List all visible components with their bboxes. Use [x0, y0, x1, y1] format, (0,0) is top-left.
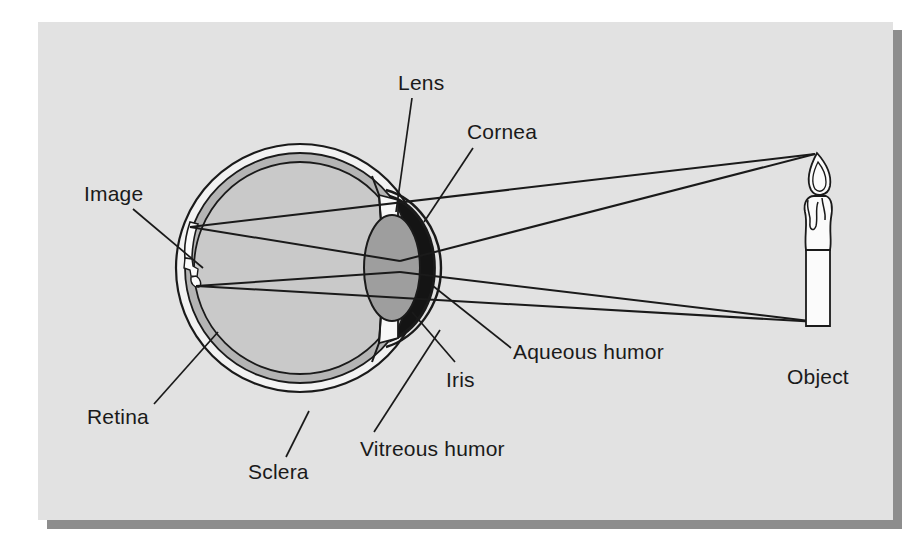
label-aqueous-humor: Aqueous humor — [513, 340, 664, 363]
object-candle-shaft — [806, 250, 830, 326]
label-lens: Lens — [398, 71, 444, 94]
label-image: Image — [84, 182, 143, 205]
object-candle — [805, 153, 832, 326]
panel-shadow-right — [893, 30, 902, 528]
lens-shape — [364, 215, 420, 321]
label-sclera: Sclera — [248, 460, 309, 483]
label-object: Object — [787, 365, 849, 388]
label-retina: Retina — [87, 405, 149, 428]
panel-shadow-bottom — [47, 520, 902, 529]
eye-diagram-figure: Lens Cornea Image Aqueous humor Iris Obj… — [0, 0, 908, 552]
object-candle-body — [805, 196, 832, 250]
label-cornea: Cornea — [467, 120, 537, 143]
label-iris: Iris — [446, 368, 475, 391]
label-vitreous-humor: Vitreous humor — [360, 437, 505, 460]
eye-diagram-canvas: Lens Cornea Image Aqueous humor Iris Obj… — [0, 0, 908, 552]
